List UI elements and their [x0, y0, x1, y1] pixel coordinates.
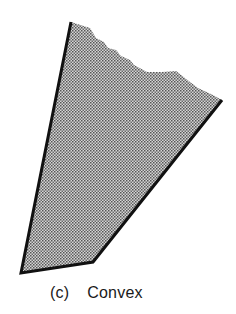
shaded-region: [21, 22, 222, 273]
convex-polygon-figure: [0, 0, 236, 314]
figure-caption: (c)Convex: [50, 284, 143, 304]
caption-tag: (c): [50, 284, 69, 302]
caption-title: Convex: [87, 284, 142, 301]
